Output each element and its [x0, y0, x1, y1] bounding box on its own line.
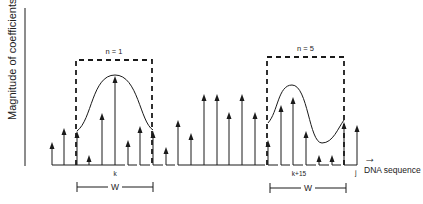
coefficient-arrow — [355, 125, 360, 165]
end-position-label: j — [354, 169, 357, 177]
arrowhead-icon — [291, 97, 296, 104]
arrowhead-icon — [176, 120, 181, 127]
coefficient-arrow — [253, 112, 258, 165]
coefficient-arrow — [304, 131, 309, 165]
arrowhead-icon — [202, 94, 207, 101]
coefficient-arrows — [50, 76, 360, 165]
arrowhead-icon — [164, 147, 169, 154]
arrowhead-icon — [100, 113, 105, 120]
arrowhead-icon — [215, 94, 220, 101]
dashed-window-box — [76, 60, 152, 165]
position-label: k+15 — [292, 170, 307, 177]
arrowhead-icon — [355, 125, 360, 132]
coefficient-arrow — [330, 155, 335, 165]
arrowhead-icon — [330, 155, 335, 162]
arrowhead-icon — [50, 142, 55, 149]
arrowhead-icon — [62, 128, 67, 135]
x-axis-label: DNA sequence — [364, 165, 421, 175]
window-width-label: W — [304, 183, 312, 193]
window-width-label: W — [111, 182, 119, 192]
analysis-windows: n = 1kWn = 5k+15W — [76, 44, 346, 193]
arrowhead-icon — [113, 76, 118, 83]
coefficient-arrow — [62, 128, 67, 165]
coefficient-arrow — [138, 126, 143, 165]
position-label: k — [113, 170, 117, 177]
wavelet-window-diagram: Magnitude of coefficients n = 1kWn = 5k+… — [0, 0, 423, 204]
coefficient-arrow — [100, 113, 105, 165]
arrowhead-icon — [304, 131, 309, 138]
coefficient-arrow — [240, 94, 245, 165]
arrowhead-icon — [279, 105, 284, 112]
x-axis-arrow-icon: → — [364, 151, 376, 165]
arrowhead-icon — [253, 112, 258, 119]
coefficient-arrow — [317, 155, 322, 165]
coefficient-arrow — [126, 140, 131, 165]
y-axis-label: Magnitude of coefficients — [6, 0, 18, 120]
coefficient-arrow — [291, 97, 296, 165]
coefficient-arrow — [176, 120, 181, 165]
coefficient-arrow — [189, 133, 194, 165]
window-2: n = 5k+15W — [267, 44, 346, 193]
coefficient-arrow — [87, 155, 92, 165]
coefficient-arrow — [113, 76, 118, 165]
arrowhead-icon — [138, 126, 143, 133]
scale-label: n = 1 — [106, 47, 123, 56]
arrowhead-icon — [240, 94, 245, 101]
arrowhead-icon — [317, 155, 322, 162]
coefficient-arrow — [227, 112, 232, 165]
coefficient-arrow — [215, 94, 220, 165]
coefficient-arrow — [202, 94, 207, 165]
coefficient-arrow — [50, 142, 55, 165]
arrowhead-icon — [189, 133, 194, 140]
coefficient-arrow — [164, 147, 169, 165]
arrowhead-icon — [87, 155, 92, 162]
scale-label: n = 5 — [297, 44, 314, 53]
arrowhead-icon — [227, 112, 232, 119]
arrowhead-icon — [126, 140, 131, 147]
coefficient-arrow — [279, 105, 284, 165]
